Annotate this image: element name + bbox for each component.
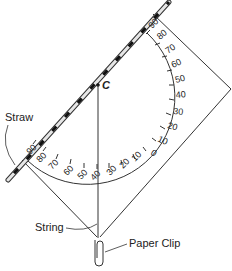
scale-label: 70 — [46, 157, 60, 171]
scale-label: 50 — [174, 73, 186, 85]
straw-leader — [5, 125, 15, 165]
scale-label: 80 — [155, 27, 169, 41]
scale-label: 10 — [156, 134, 169, 147]
string-leader — [66, 224, 97, 229]
scale-label: 30 — [104, 163, 118, 177]
string-label: String — [35, 221, 64, 233]
scale-label: 80 — [34, 150, 48, 164]
scale-label: 70 — [163, 42, 177, 56]
scale-label: 40 — [88, 168, 102, 182]
tick-marks — [33, 30, 174, 169]
clinometer-diagram: 90 80 70 60 50 40 30 20 10 0 10 20 30 40… — [0, 0, 232, 271]
paper-clip — [95, 240, 103, 266]
scale-label: 50 — [75, 167, 89, 181]
scale-label: 40 — [175, 89, 186, 100]
paper-clip-label: Paper Clip — [129, 237, 180, 249]
scale-label: 0 — [149, 147, 159, 158]
paper-clip-leader — [105, 244, 127, 252]
scale-label: 60 — [170, 57, 183, 70]
scale-label: 20 — [117, 156, 131, 170]
scale-label: 10 — [129, 149, 143, 163]
scale-label: 30 — [173, 106, 184, 117]
scale-numbers: 90 80 70 60 50 40 30 20 10 0 10 20 30 40… — [24, 16, 186, 182]
straw-label: Straw — [5, 111, 33, 123]
scale-label: 60 — [61, 163, 75, 177]
center-label: C — [102, 79, 111, 91]
